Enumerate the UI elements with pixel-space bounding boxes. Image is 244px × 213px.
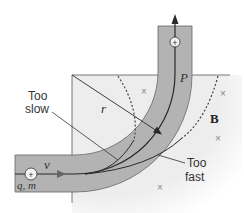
exit-arrowhead-icon — [172, 14, 179, 24]
too-fast-label-line2: fast — [185, 170, 205, 184]
exit-charge-sign: + — [172, 38, 177, 48]
field-into-page-marker: × — [157, 182, 163, 193]
field-into-page-marker: × — [215, 133, 221, 144]
too-slow-label-line2: slow — [25, 102, 49, 116]
field-into-page-marker: × — [141, 86, 147, 97]
point-p-label: P — [179, 70, 188, 85]
field-into-page-marker: × — [220, 88, 226, 99]
diagram-canvas: + + Too slow Too fast r P B v q, m × × ×… — [0, 0, 244, 213]
velocity-label: v — [44, 157, 50, 172]
magnetic-field-particle-diagram: + + Too slow Too fast r P B v q, m × × ×… — [0, 0, 244, 213]
too-fast-label-line1: Too — [187, 156, 207, 170]
charge-mass-label: q, m — [17, 179, 36, 191]
magnetic-field-label: B — [210, 111, 219, 126]
too-slow-label-line1: Too — [28, 89, 48, 103]
entry-charge-sign: + — [28, 170, 33, 180]
